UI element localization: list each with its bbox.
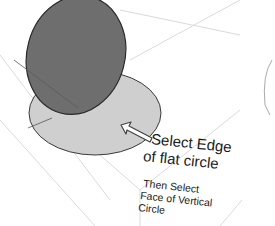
modeling-viewport[interactable]: Select Edge of flat circle Then Select F… <box>0 0 275 226</box>
scene-canvas <box>0 0 275 226</box>
partial-shape-outline <box>264 60 272 115</box>
